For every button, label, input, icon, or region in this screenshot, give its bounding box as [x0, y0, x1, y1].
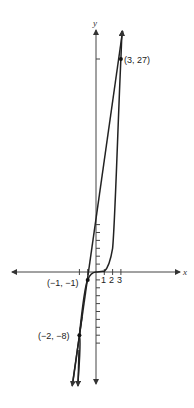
x-axis-label: x [182, 267, 187, 277]
graph-canvas: x y 1 2 3 [0, 0, 194, 408]
x-tick-label-3: 3 [117, 275, 122, 285]
point-label-m2-m8: (−2, −8) [38, 331, 70, 341]
y-axis-label: y [92, 18, 97, 28]
point-m1-m1 [86, 278, 90, 282]
y-ticks-positive [96, 59, 100, 264]
cubic-curve-lower-arrow [78, 350, 79, 386]
point-label-3-27: (3, 27) [124, 55, 150, 65]
x-tick-label-1: 1 [101, 275, 106, 285]
point-3-27 [119, 57, 123, 61]
x-tick-label-2: 2 [109, 275, 114, 285]
y-ticks-negative [96, 280, 100, 343]
point-m2-m8 [77, 333, 81, 337]
point-label-m1-m1: (−1, −1) [47, 278, 79, 288]
